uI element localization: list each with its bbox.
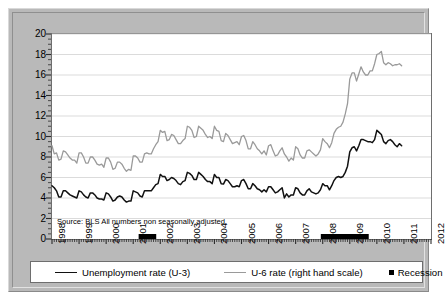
chart-legend: Unemployment rate (U-3)U-6 rate (right h… bbox=[30, 261, 423, 283]
legend-square-marker bbox=[389, 270, 394, 275]
x-tick-label: 2003 bbox=[191, 223, 202, 244]
chart-panel-inner: 02468101214161820 1998199920002001200220… bbox=[12, 12, 425, 288]
x-tick-label: 2012 bbox=[435, 223, 446, 244]
x-tick-label: 2004 bbox=[218, 223, 229, 244]
legend-item[interactable]: Unemployment rate (U-3) bbox=[55, 267, 190, 278]
x-tick-label: 2005 bbox=[246, 223, 257, 244]
x-tick-label: 2007 bbox=[300, 223, 311, 244]
x-tick-label: 2006 bbox=[273, 223, 284, 244]
x-tick-label: 2009 bbox=[354, 223, 365, 244]
chart-panel: 02468101214161820 1998199920002001200220… bbox=[8, 8, 429, 292]
x-tick-label: 1998 bbox=[56, 223, 67, 244]
legend-item[interactable]: U-6 rate (right hand scale) bbox=[224, 267, 362, 278]
legend-line-marker bbox=[55, 272, 77, 273]
legend-label: Recession bbox=[398, 267, 443, 278]
x-tick-label: 2010 bbox=[381, 223, 392, 244]
x-tick-label: 2011 bbox=[408, 224, 419, 244]
x-tick-label: 1999 bbox=[83, 223, 94, 244]
legend-label: Unemployment rate (U-3) bbox=[82, 267, 190, 278]
source-note: Source: BLS All numbers non seasonally a… bbox=[57, 217, 227, 226]
legend-line-marker bbox=[224, 272, 246, 273]
axis-ticks bbox=[13, 13, 428, 291]
x-tick-label: 2001 bbox=[137, 223, 148, 244]
legend-item[interactable]: Recession bbox=[389, 267, 443, 278]
x-tick-label: 2002 bbox=[164, 223, 175, 244]
legend-label: U-6 rate (right hand scale) bbox=[251, 267, 362, 278]
x-tick-label: 2000 bbox=[110, 223, 121, 244]
x-tick-label: 2008 bbox=[327, 223, 338, 244]
